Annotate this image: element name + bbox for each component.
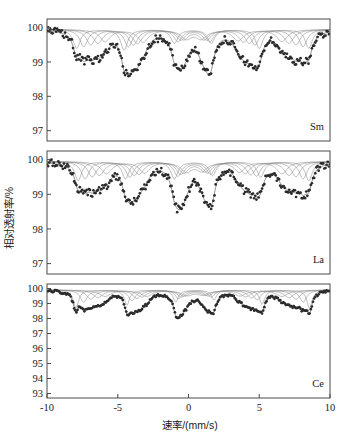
panel-label-la: La xyxy=(313,254,324,265)
x-axis-title: 速率/(mm/s) xyxy=(162,419,218,431)
y-tick-label: 99 xyxy=(33,57,44,68)
y-tick-label: 97 xyxy=(33,328,44,339)
y-tick-label: 98 xyxy=(33,313,44,324)
y-tick-label: 98 xyxy=(33,91,44,102)
y-tick-label: 94 xyxy=(33,373,44,384)
y-tick-label: 99 xyxy=(33,189,44,200)
x-tick-label: 0 xyxy=(186,402,191,413)
y-tick-label: 97 xyxy=(33,125,44,136)
y-tick-label: 100 xyxy=(27,22,43,33)
x-tick-label: 10 xyxy=(325,402,336,413)
x-tick-label: -5 xyxy=(113,402,122,413)
y-axis-title: 相对透射率/% xyxy=(3,187,15,249)
y-tick-label: 100 xyxy=(27,283,43,294)
y-tick-label: 95 xyxy=(33,358,44,369)
y-tick-label: 97 xyxy=(33,258,44,269)
y-tick-label: 100 xyxy=(27,154,43,165)
y-tick-label: 98 xyxy=(33,224,44,235)
y-tick-label: 93 xyxy=(33,388,44,399)
y-tick-label: 99 xyxy=(33,298,44,309)
panel-label-sm: Sm xyxy=(310,121,324,132)
moessbauer-spectra-figure: 100999897Sm100999897La10099989796959493C… xyxy=(0,0,348,436)
y-tick-label: 96 xyxy=(33,343,44,354)
panel-label-ce: Ce xyxy=(312,378,324,389)
x-tick-label: -10 xyxy=(40,402,54,413)
x-tick-label: 5 xyxy=(257,402,262,413)
